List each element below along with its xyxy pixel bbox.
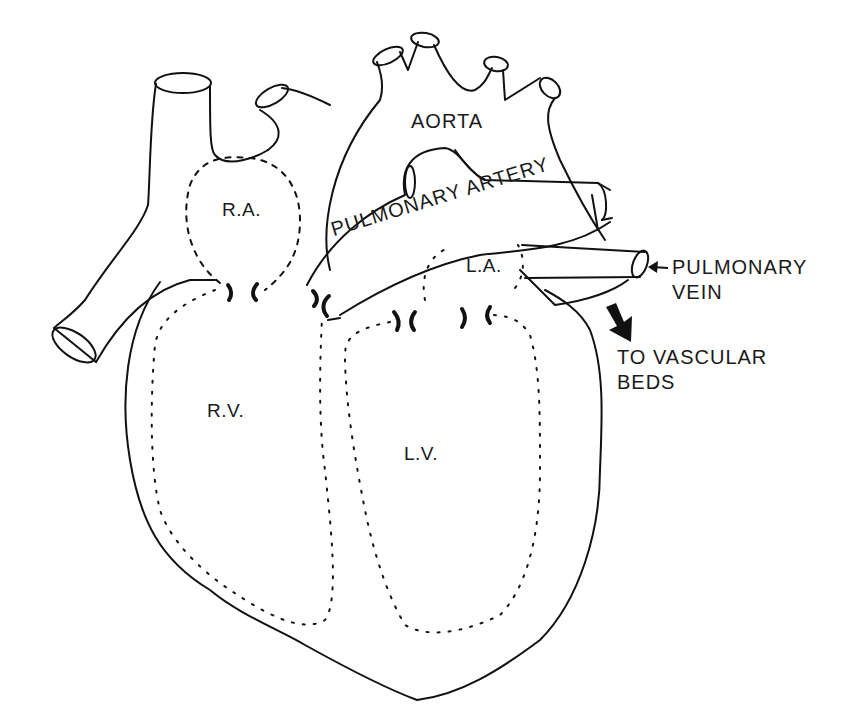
heart-outline [125,282,601,700]
aorta-shape [327,31,605,270]
right-atrium-outline [186,157,300,290]
heart-valves [228,284,490,330]
pulmonary-vein-label-line2: VEIN [672,281,723,303]
right-atrium-label: R.A. [222,199,261,221]
right-ventricle-label: R.V. [207,400,244,422]
pulmonary-vein-shape [520,195,651,305]
pulmonary-vein-arrow [648,261,668,273]
heart-diagram: AORTA PULMONARY ARTERY R.A. L.A. R.V. L.… [0,0,851,719]
vascular-beds-arrow [606,303,632,342]
left-ventricle-outline [345,315,540,632]
left-atrium-label: L.A. [466,255,502,277]
vascular-beds-label-line1: TO VASCULAR [617,346,767,368]
pulmonary-vein-label-line1: PULMONARY [672,256,807,278]
right-ventricle-outline [152,290,333,625]
left-ventricle-label: L.V. [404,443,438,465]
aorta-label: AORTA [411,110,483,132]
upper-branch-vessel [252,80,330,150]
vena-cava [47,73,268,369]
vascular-beds-label-line2: BEDS [617,371,675,393]
